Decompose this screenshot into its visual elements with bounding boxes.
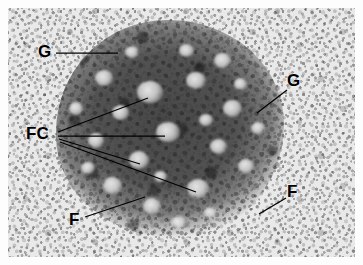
- fibrillar-center-blob: [186, 72, 206, 89]
- fibrillar-center-blob: [69, 102, 83, 115]
- fibrillar-center-blob: [210, 139, 227, 154]
- fibrillar-center-blob: [204, 207, 217, 218]
- fibrillar-center-blob: [223, 100, 242, 117]
- fibrillar-center-blob: [187, 179, 209, 198]
- fibrillar-center-blob: [95, 70, 113, 86]
- fibrillar-center-blob: [137, 81, 163, 103]
- fibrillar-center-blob: [251, 122, 265, 134]
- fibrillar-center-blob: [179, 44, 194, 57]
- annotation-label-fc-left: FC: [26, 125, 49, 142]
- fibrillar-center-blob: [125, 46, 139, 58]
- micrograph-plate: [8, 8, 355, 257]
- fibrillar-center-blob: [112, 105, 129, 120]
- annotation-label-f-bottom-left: F: [69, 211, 79, 228]
- fibrillar-center-blob: [238, 159, 254, 173]
- annotation-label-f-right: F: [287, 183, 297, 200]
- fibrillar-center-blob: [199, 114, 213, 126]
- fibrillar-center-blob: [234, 78, 247, 90]
- fibrillar-center-blob: [156, 122, 180, 142]
- fibrillar-center-blob: [88, 133, 104, 148]
- annotation-label-g-top-left: G: [38, 43, 51, 60]
- fibrillar-center-blob: [129, 151, 149, 169]
- fibrillar-center-blob: [103, 177, 122, 194]
- annotation-label-g-right: G: [287, 72, 300, 89]
- fibrillar-center-blob: [81, 162, 95, 174]
- fibrillar-center-blob: [154, 171, 167, 182]
- fibrillar-center-blob: [214, 53, 231, 68]
- fibrillar-center-blob: [143, 198, 161, 214]
- fibrillar-center-blob: [171, 216, 186, 229]
- micrograph-figure: GGFCFF: [0, 0, 363, 265]
